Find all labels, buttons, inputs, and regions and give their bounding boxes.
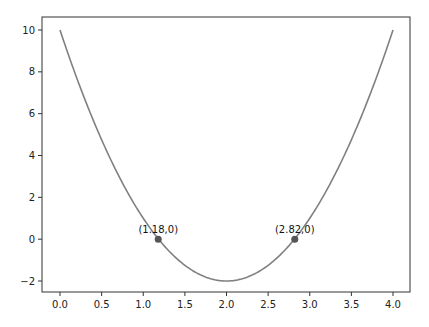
x-tick-label: 1.5: [177, 299, 193, 310]
x-tick-label: 1.0: [135, 299, 151, 310]
y-axis: −20246810: [20, 25, 42, 287]
y-tick-label: −2: [20, 276, 35, 287]
x-tick-label: 3.0: [302, 299, 318, 310]
x-tick-label: 0.5: [94, 299, 110, 310]
x-tick-label: 3.5: [343, 299, 359, 310]
root-label: (2.82,0): [275, 224, 315, 235]
y-tick-label: 8: [29, 66, 35, 77]
y-tick-label: 4: [29, 150, 35, 161]
y-tick-label: 0: [29, 234, 35, 245]
root-label: (1.18,0): [138, 224, 178, 235]
root-marker: [291, 236, 298, 243]
plot-area: [42, 17, 410, 292]
y-tick-label: 6: [29, 108, 35, 119]
root-marker: [155, 236, 162, 243]
parabola-chart: 0.00.51.01.52.02.53.03.54.0 −20246810 (1…: [0, 0, 429, 327]
x-axis: 0.00.51.01.52.02.53.03.54.0: [52, 292, 401, 310]
y-tick-label: 2: [29, 192, 35, 203]
x-tick-label: 2.5: [260, 299, 276, 310]
x-tick-label: 0.0: [52, 299, 68, 310]
x-tick-label: 4.0: [385, 299, 401, 310]
x-tick-label: 2.0: [219, 299, 235, 310]
y-tick-label: 10: [22, 25, 35, 36]
